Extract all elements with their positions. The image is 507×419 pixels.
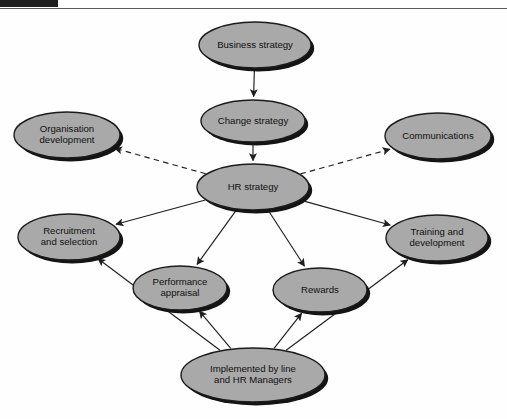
edge-hr-to-performance (197, 210, 236, 264)
edge-implemented-to-performance (199, 311, 230, 348)
edge-implemented-to-rewards (274, 313, 302, 348)
header-black-bar (0, 0, 58, 7)
node-body[interactable] (201, 100, 305, 142)
node-body[interactable] (273, 268, 367, 312)
node-organisation-development[interactable]: Organisationdevelopment (14, 112, 123, 161)
diagram-figure: Business strategyChange strategyHR strat… (0, 0, 507, 419)
node-recruitment-and-selection[interactable]: Recruitmentand selection (18, 214, 123, 263)
node-body[interactable] (199, 22, 311, 68)
node-body[interactable] (14, 112, 120, 158)
node-performance-appraisal[interactable]: Performanceappraisal (133, 266, 230, 313)
edge-hr-to-organisation-development (115, 148, 206, 173)
page-header-decoration (0, 0, 507, 9)
edge-hr-to-training (300, 200, 390, 225)
node-body[interactable] (18, 214, 120, 260)
node-business-strategy[interactable]: Business strategy (199, 22, 314, 71)
edge-hr-to-rewards (268, 210, 304, 266)
node-implemented-by[interactable]: Implemented by lineand HR Managers (181, 348, 328, 405)
node-body[interactable] (133, 266, 227, 310)
node-training-and-development[interactable]: Training anddevelopment (386, 215, 491, 264)
node-body[interactable] (385, 113, 491, 159)
node-change-strategy[interactable]: Change strategy (201, 100, 308, 145)
node-hr-strategy[interactable]: HR strategy (197, 164, 312, 213)
node-body[interactable] (386, 215, 488, 261)
edge-hr-to-communications (300, 149, 389, 174)
hr-strategy-diagram: Business strategyChange strategyHR strat… (0, 0, 507, 419)
edge-hr-to-recruitment (116, 200, 205, 224)
node-body[interactable] (181, 348, 325, 402)
node-body[interactable] (197, 164, 309, 210)
node-communications[interactable]: Communications (385, 113, 494, 162)
node-rewards[interactable]: Rewards (273, 268, 370, 315)
edge-business-to-change (254, 69, 255, 97)
